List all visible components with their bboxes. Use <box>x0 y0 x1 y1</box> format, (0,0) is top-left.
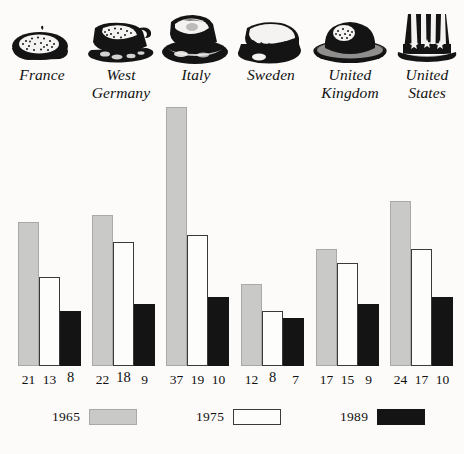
value-united-states-1989: 10 <box>432 372 453 388</box>
value-sweden-1965: 12 <box>241 372 262 388</box>
bar-west-germany-1965 <box>92 215 113 366</box>
value-sweden-1989: 7 <box>285 372 306 388</box>
bar-west-germany-1975 <box>113 242 134 366</box>
value-united-states-1965: 24 <box>390 372 411 388</box>
bar-italy-1989 <box>208 297 229 366</box>
value-france-1975: 13 <box>39 372 60 388</box>
bar-italy-1975 <box>187 235 208 366</box>
bar-united-kingdom-1989 <box>358 304 379 366</box>
value-united-kingdom-1975: 15 <box>337 372 358 388</box>
value-italy-1965: 37 <box>166 372 187 388</box>
value-group-italy: 37 19 10 <box>166 372 229 392</box>
bar-united-states-1975 <box>411 249 432 366</box>
legend-item-1975: 1975 <box>196 408 281 426</box>
value-west-germany-1975: 18 <box>113 369 134 385</box>
bar-united-kingdom-1965 <box>316 249 337 366</box>
value-united-kingdom-1965: 17 <box>316 372 337 388</box>
bar-west-germany-1989 <box>134 304 155 366</box>
value-group-sweden: 12 8 7 <box>241 372 304 392</box>
value-united-kingdom-1989: 9 <box>358 372 379 388</box>
bar-sweden-1989 <box>283 318 304 366</box>
value-sweden-1975: 8 <box>262 369 283 385</box>
bar-france-1965 <box>18 222 39 366</box>
legend-year-1975: 1975 <box>196 408 224 426</box>
legend-year-1989: 1989 <box>340 408 368 426</box>
value-italy-1989: 10 <box>208 372 229 388</box>
value-group-united-kingdom: 17 15 9 <box>316 372 379 392</box>
value-group-west-germany: 22 18 9 <box>92 372 155 392</box>
legend-item-1965: 1965 <box>52 408 137 426</box>
bar-sweden-1975 <box>262 311 283 366</box>
chart-legend: 1965 1975 1989 <box>0 408 464 432</box>
value-united-states-1975: 17 <box>411 372 432 388</box>
hat-ownership-chart: France West Germany Italy Sweden United … <box>0 0 464 454</box>
legend-swatch-1975 <box>233 409 281 425</box>
bar-france-1975 <box>39 277 60 366</box>
bar-sweden-1965 <box>241 284 262 366</box>
bar-italy-1965 <box>166 107 187 366</box>
bar-united-states-1965 <box>390 201 411 366</box>
legend-item-1989: 1989 <box>340 408 425 426</box>
bar-united-kingdom-1975 <box>337 263 358 366</box>
value-west-germany-1965: 22 <box>92 372 113 388</box>
bar-united-states-1989 <box>432 297 453 366</box>
value-france-1989: 8 <box>60 369 81 385</box>
value-italy-1975: 19 <box>187 372 208 388</box>
value-group-united-states: 24 17 10 <box>390 372 453 392</box>
legend-swatch-1989 <box>377 409 425 425</box>
legend-year-1965: 1965 <box>52 408 80 426</box>
value-west-germany-1989: 9 <box>134 372 155 388</box>
value-group-france: 21 13 8 <box>18 372 81 392</box>
value-labels-row: 21 13 8 22 18 9 37 19 10 12 8 7 17 15 9 … <box>0 372 464 392</box>
bar-france-1989 <box>60 311 81 366</box>
value-france-1965: 21 <box>18 372 39 388</box>
legend-swatch-1965 <box>89 409 137 425</box>
